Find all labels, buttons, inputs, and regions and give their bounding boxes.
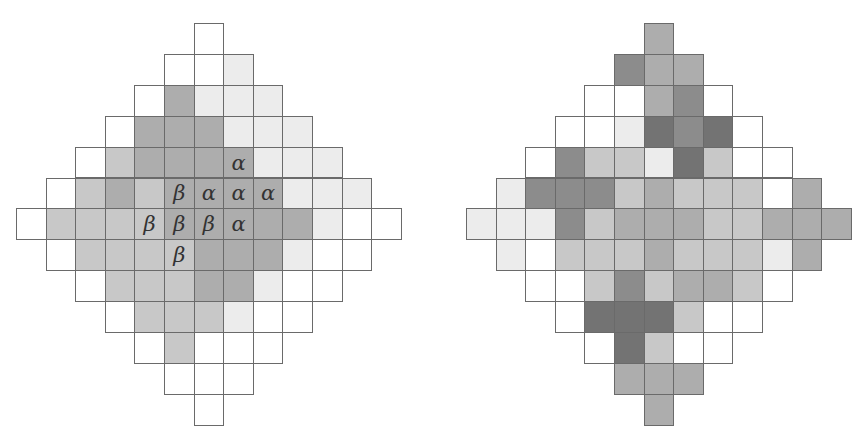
grid-cell xyxy=(732,270,763,302)
grid-cell xyxy=(194,394,225,426)
grid-cell xyxy=(555,116,586,148)
grid-cell xyxy=(253,116,284,148)
grid-cell xyxy=(673,147,704,179)
grid-cell xyxy=(673,363,704,395)
grid-cell xyxy=(46,178,77,210)
grid-cell xyxy=(703,116,734,148)
grid-cell xyxy=(105,239,136,271)
grid-cell xyxy=(312,208,343,240)
grid-cell xyxy=(525,147,556,179)
grid-cell xyxy=(46,239,77,271)
cell-label: α xyxy=(231,212,245,236)
grid-cell xyxy=(644,394,675,426)
grid-cell xyxy=(614,178,645,210)
grid-cell xyxy=(614,239,645,271)
grid-cell xyxy=(644,208,675,240)
grid-cell xyxy=(673,208,704,240)
grid-cell xyxy=(584,208,615,240)
grid-cell xyxy=(282,270,313,302)
labeled-grid-cell: α xyxy=(223,208,254,240)
grid-cell xyxy=(105,301,136,333)
grid-cell xyxy=(703,85,734,117)
grid-cell xyxy=(312,270,343,302)
labeled-grid-cell: α xyxy=(194,178,225,210)
grid-cell xyxy=(253,301,284,333)
grid-cell xyxy=(703,208,734,240)
grid-cell xyxy=(496,178,527,210)
grid-cell xyxy=(253,208,284,240)
grid-cell xyxy=(673,239,704,271)
grid-cell xyxy=(194,363,225,395)
grid-cell xyxy=(525,270,556,302)
grid-cell xyxy=(584,301,615,333)
grid-cell xyxy=(134,178,165,210)
grid-cell xyxy=(282,208,313,240)
grid-cell xyxy=(194,85,225,117)
grid-cell xyxy=(134,85,165,117)
grid-cell xyxy=(134,270,165,302)
grid-cell xyxy=(762,270,793,302)
grid-cell xyxy=(555,239,586,271)
grid-cell xyxy=(253,147,284,179)
grid-cell xyxy=(223,54,254,86)
grid-cell xyxy=(75,147,106,179)
grid-cell xyxy=(673,301,704,333)
grid-cell xyxy=(134,147,165,179)
grid-cell xyxy=(105,270,136,302)
grid-cell xyxy=(105,178,136,210)
grid-cell xyxy=(555,178,586,210)
grid-cell xyxy=(614,270,645,302)
grid-cell xyxy=(584,147,615,179)
grid-cell xyxy=(762,147,793,179)
grid-cell xyxy=(792,239,823,271)
grid-cell xyxy=(134,116,165,148)
grid-cell xyxy=(105,116,136,148)
grid-cell xyxy=(223,85,254,117)
grid-cell xyxy=(555,147,586,179)
grid-cell xyxy=(194,332,225,364)
cell-label: α xyxy=(231,181,245,205)
labeled-grid-cell: β xyxy=(164,208,195,240)
grid-cell xyxy=(584,178,615,210)
grid-cell xyxy=(732,147,763,179)
grid-cell xyxy=(312,178,343,210)
grid-cell xyxy=(223,301,254,333)
grid-cell xyxy=(194,116,225,148)
grid-cell xyxy=(253,85,284,117)
labeled-grid-cell: β xyxy=(164,178,195,210)
grid-cell xyxy=(312,239,343,271)
grid-cell xyxy=(673,85,704,117)
grid-cell xyxy=(194,147,225,179)
grid-cell xyxy=(703,332,734,364)
grid-cell xyxy=(371,208,402,240)
grid-cell xyxy=(253,270,284,302)
grid-cell xyxy=(644,147,675,179)
grid-cell xyxy=(732,239,763,271)
grid-cell xyxy=(105,147,136,179)
grid-cell xyxy=(282,301,313,333)
grid-cell xyxy=(584,116,615,148)
grid-cell xyxy=(164,363,195,395)
grid-cell xyxy=(194,23,225,55)
grid-cell xyxy=(644,23,675,55)
grid-cell xyxy=(342,178,373,210)
grid-cell xyxy=(194,54,225,86)
grid-cell xyxy=(732,301,763,333)
grid-cell xyxy=(164,85,195,117)
grid-cell xyxy=(525,208,556,240)
grid-cell xyxy=(194,301,225,333)
cell-label: α xyxy=(231,151,245,175)
labeled-grid-cell: α xyxy=(253,178,284,210)
grid-cell xyxy=(614,54,645,86)
grid-cell xyxy=(614,301,645,333)
grid-cell xyxy=(644,178,675,210)
labeled-grid-cell: β xyxy=(194,208,225,240)
grid-cell xyxy=(614,85,645,117)
grid-cell xyxy=(105,208,136,240)
grid-cell xyxy=(673,270,704,302)
grid-cell xyxy=(614,363,645,395)
grid-cell xyxy=(253,239,284,271)
grid-cell xyxy=(762,208,793,240)
grid-cell xyxy=(614,147,645,179)
grid-cell xyxy=(555,270,586,302)
